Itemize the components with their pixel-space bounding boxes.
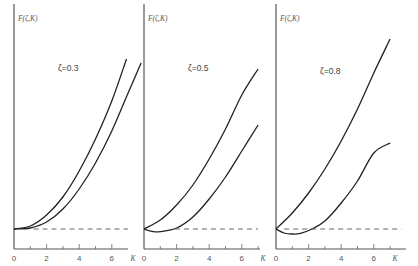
- x-tick-label: 2: [174, 254, 179, 263]
- y-axis-label: F(ζ,K): [279, 14, 300, 23]
- x-tick-label: 2: [306, 254, 311, 263]
- x-tick-label: 6: [240, 254, 245, 263]
- zeta-label: ζ=0.3: [58, 63, 79, 73]
- x-axis-label: K: [259, 254, 266, 263]
- zeta-label: ζ=0.5: [188, 63, 209, 73]
- curve-upper: [144, 69, 258, 229]
- x-tick-label: 4: [77, 254, 82, 263]
- zeta-label: ζ=0.8: [320, 66, 341, 76]
- y-axis-label: F(ζ,K): [147, 14, 168, 23]
- x-tick-label: 2: [44, 254, 49, 263]
- x-tick-label: 4: [207, 254, 212, 263]
- panel-3: 0246KF(ζ,K)ζ=0.8: [274, 4, 406, 263]
- y-axis-label: F(ζ,K): [17, 14, 38, 23]
- x-tick-label: 0: [274, 254, 279, 263]
- panel-2: 0246KF(ζ,K)ζ=0.5: [142, 4, 267, 263]
- curve-lower: [14, 63, 141, 229]
- x-axis-label: K: [129, 254, 136, 263]
- chart-figure: 0246KF(ζ,K)ζ=0.30246KF(ζ,K)ζ=0.50246KF(ζ…: [0, 0, 418, 266]
- x-tick-label: 6: [110, 254, 115, 263]
- curve-upper: [14, 59, 127, 229]
- x-tick-label: 6: [372, 254, 377, 263]
- x-tick-label: 4: [339, 254, 344, 263]
- x-tick-label: 0: [142, 254, 147, 263]
- x-axis-label: K: [391, 254, 398, 263]
- x-tick-label: 0: [12, 254, 17, 263]
- panel-1: 0246KF(ζ,K)ζ=0.3: [12, 4, 141, 263]
- curve-lower: [144, 125, 258, 232]
